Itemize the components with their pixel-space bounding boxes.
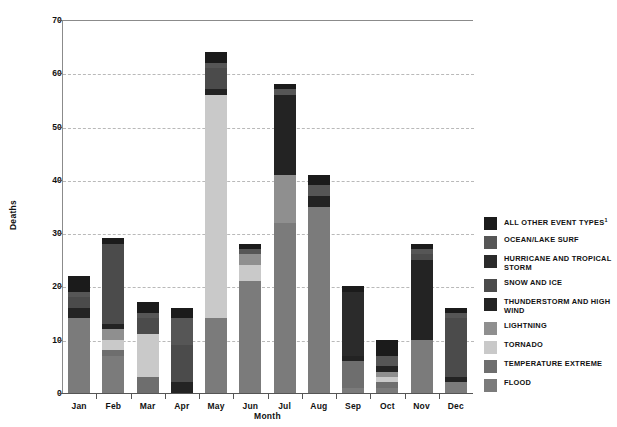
- bar-segment: [342, 361, 364, 388]
- bar-feb[interactable]: [102, 238, 124, 393]
- x-axis-tick-mark: [165, 393, 166, 399]
- legend-label: FLOOD: [504, 378, 531, 387]
- legend-swatch: [484, 279, 497, 292]
- bar-jan[interactable]: [68, 276, 90, 393]
- bar-aug[interactable]: [308, 175, 330, 393]
- bar-segment: [274, 95, 296, 175]
- bar-segment: [205, 52, 227, 63]
- legend-label: THUNDERSTORM AND HIGH WIND: [504, 297, 617, 316]
- x-axis-tick-mark: [233, 393, 234, 399]
- bar-segment: [239, 254, 261, 265]
- bar-segment: [171, 308, 193, 319]
- bar-segment: [205, 95, 227, 319]
- legend: ALL OTHER EVENT TYPES1OCEAN/LAKE SURFHUR…: [484, 216, 617, 397]
- bar-segment: [308, 207, 330, 394]
- legend-item[interactable]: SNOW AND ICE: [484, 278, 617, 292]
- bar-oct[interactable]: [376, 340, 398, 393]
- bar-nov[interactable]: [411, 244, 433, 393]
- bar-segment: [137, 302, 159, 313]
- chart-root: 010203040506070 Deaths JanFebMarAprMayJu…: [0, 0, 617, 427]
- bar-segment: [308, 175, 330, 186]
- bar-segment: [171, 345, 193, 382]
- legend-label: TEMPERATURE EXTREME: [504, 359, 602, 368]
- x-axis-tick-label: Dec: [433, 401, 479, 411]
- legend-item[interactable]: LIGHTNING: [484, 321, 617, 335]
- legend-item[interactable]: OCEAN/LAKE SURF: [484, 235, 617, 249]
- legend-swatch: [484, 379, 497, 392]
- legend-swatch: [484, 322, 497, 335]
- bar-segment: [68, 318, 90, 393]
- bar-segment: [445, 382, 467, 393]
- legend-label: LIGHTNING: [504, 321, 547, 330]
- bar-segment: [308, 196, 330, 207]
- bar-segment: [411, 340, 433, 393]
- bar-sep[interactable]: [342, 286, 364, 393]
- bar-mar[interactable]: [137, 302, 159, 393]
- bar-segment: [102, 329, 124, 340]
- bar-segment: [102, 356, 124, 393]
- bar-apr[interactable]: [171, 308, 193, 393]
- bar-may[interactable]: [205, 52, 227, 393]
- legend-label: SNOW AND ICE: [504, 278, 562, 287]
- x-axis-tick-mark: [405, 393, 406, 399]
- legend-item[interactable]: TEMPERATURE EXTREME: [484, 359, 617, 373]
- legend-label: OCEAN/LAKE SURF: [504, 235, 579, 244]
- bar-segment: [239, 281, 261, 393]
- x-axis-tick-mark: [370, 393, 371, 399]
- bar-segment: [205, 68, 227, 89]
- legend-label: ALL OTHER EVENT TYPES1: [504, 216, 608, 228]
- bar-dec[interactable]: [445, 308, 467, 393]
- bar-segment: [171, 318, 193, 345]
- bar-jun[interactable]: [239, 244, 261, 393]
- legend-swatch: [484, 341, 497, 354]
- y-axis-label: Deaths: [8, 180, 18, 250]
- legend-footnote-marker: 1: [604, 217, 607, 223]
- y-axis: 010203040506070: [26, 0, 62, 427]
- legend-item[interactable]: FLOOD: [484, 378, 617, 392]
- bar-segment: [68, 276, 90, 292]
- bar-segment: [68, 297, 90, 308]
- x-axis-tick-mark: [131, 393, 132, 399]
- bar-segment: [239, 265, 261, 281]
- bar-segment: [274, 223, 296, 394]
- legend-label: HURRICANE AND TROPICAL STORM: [504, 254, 617, 273]
- bar-segment: [171, 382, 193, 393]
- legend-label: TORNADO: [504, 340, 543, 349]
- legend-item[interactable]: HURRICANE AND TROPICAL STORM: [484, 254, 617, 273]
- legend-swatch: [484, 217, 497, 230]
- x-axis-tick-mark: [302, 393, 303, 399]
- x-axis-tick-mark: [439, 393, 440, 399]
- bar-segment: [137, 334, 159, 377]
- bar-segment: [68, 308, 90, 319]
- bar-segment: [205, 318, 227, 393]
- legend-item[interactable]: ALL OTHER EVENT TYPES1: [484, 216, 617, 230]
- bar-segment: [102, 244, 124, 324]
- bar-segment: [308, 185, 330, 196]
- x-axis-tick-mark: [96, 393, 97, 399]
- bar-segment: [411, 260, 433, 340]
- legend-swatch: [484, 236, 497, 249]
- x-axis-tick-mark: [268, 393, 269, 399]
- x-axis-label: Month: [62, 411, 473, 421]
- bar-segment: [102, 340, 124, 351]
- bar-segment: [342, 292, 364, 356]
- bar-jul[interactable]: [274, 84, 296, 393]
- legend-swatch: [484, 255, 497, 268]
- bars-container: [62, 20, 473, 393]
- bar-segment: [376, 356, 398, 367]
- bar-segment: [274, 175, 296, 223]
- x-axis-tick-mark: [199, 393, 200, 399]
- legend-item[interactable]: THUNDERSTORM AND HIGH WIND: [484, 297, 617, 316]
- bar-segment: [445, 318, 467, 377]
- x-axis-tick-mark: [336, 393, 337, 399]
- bar-segment: [137, 318, 159, 334]
- legend-swatch: [484, 360, 497, 373]
- x-axis: JanFebMarAprMayJunJulAugSepOctNovDec: [62, 393, 473, 427]
- bar-segment: [376, 340, 398, 356]
- bar-segment: [137, 377, 159, 393]
- legend-swatch: [484, 298, 497, 311]
- legend-item[interactable]: TORNADO: [484, 340, 617, 354]
